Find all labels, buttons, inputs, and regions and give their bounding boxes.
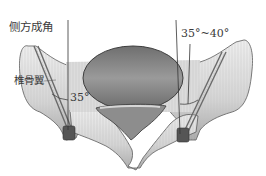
left-angle-label: 35°	[70, 92, 90, 103]
lamina-label: 椎骨翼	[14, 75, 44, 86]
angle-range-label: 35°~40°	[181, 28, 229, 39]
lateral-angle-label: 侧方成角	[9, 22, 53, 34]
vertebral-body	[83, 46, 183, 110]
